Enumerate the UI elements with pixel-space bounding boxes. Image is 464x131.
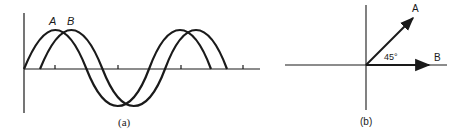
curve-b-label: B: [67, 16, 74, 27]
phase-diagram-figure: A B (a) A B 45° (b): [0, 0, 464, 131]
phasor-a-label: A: [412, 4, 419, 14]
curve-a-label: A: [49, 16, 56, 27]
caption-a: (a): [118, 117, 130, 128]
caption-b: (b): [360, 117, 372, 127]
angle-label: 45°: [384, 53, 398, 62]
sine-curve-b: [40, 30, 227, 106]
phasor-axes: [285, 5, 447, 110]
phasor-b-label: B: [434, 53, 441, 63]
